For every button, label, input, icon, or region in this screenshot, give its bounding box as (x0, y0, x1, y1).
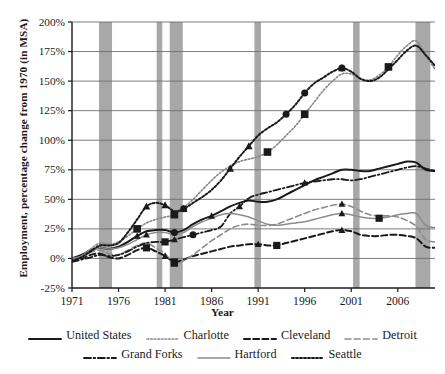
marker-circle (301, 89, 308, 96)
marker-square (376, 215, 383, 222)
legend-item-charlotte[interactable]: Charlotte (146, 328, 229, 343)
legend-item-united-states[interactable]: United States (28, 328, 131, 343)
legend-line-swatch (344, 330, 378, 341)
x-axis-title: Year (0, 306, 445, 318)
marker-square (171, 260, 178, 267)
legend-item-hartford[interactable]: Hartford (197, 347, 277, 362)
series-group (72, 41, 435, 264)
marker-square (161, 238, 168, 245)
legend-item-label: United States (66, 328, 131, 343)
y-tick-label: 0% (50, 252, 66, 264)
marker-circle (171, 229, 178, 236)
legend-item-seattle[interactable]: Seattle (291, 347, 362, 362)
marker-circle (190, 231, 197, 238)
recession-band (353, 22, 360, 288)
y-tick-label: 25% (44, 222, 65, 234)
y-tick-label: 125% (39, 104, 66, 116)
recession-band (254, 22, 261, 288)
y-tick-label: -25% (41, 282, 66, 294)
legend-item-label: Hartford (235, 347, 277, 362)
legend-item-detroit[interactable]: Detroit (344, 328, 417, 343)
marker-square (273, 242, 280, 249)
legend-line-swatch (291, 349, 325, 360)
legend-item-label: Seattle (329, 347, 362, 362)
legend-item-label: Cleveland (281, 328, 330, 343)
marker-square (264, 148, 272, 156)
legend-item-grand-forks[interactable]: Grand Forks (83, 347, 182, 362)
marker-square (301, 110, 309, 118)
y-tick-label: 200% (39, 16, 66, 28)
legend-line-swatch (243, 330, 277, 341)
recession-band (170, 22, 183, 288)
legend-line-swatch (146, 330, 180, 341)
series-line (72, 161, 435, 258)
y-tick-label: 50% (44, 193, 65, 205)
legend-line-swatch (83, 349, 117, 360)
y-tick-label: 175% (39, 45, 66, 57)
legend-item-cleveland[interactable]: Cleveland (243, 328, 330, 343)
legend-item-label: Grand Forks (121, 347, 182, 362)
legend-row-1: United StatesCharlotteClevelandDetroit (0, 326, 445, 345)
legend-item-label: Charlotte (184, 328, 229, 343)
y-tick-label: 75% (44, 163, 65, 175)
y-tick-label: 150% (39, 75, 66, 87)
chart-root: Employment, percentage change from 1970 … (0, 0, 445, 374)
y-tick-label: 100% (39, 134, 66, 146)
legend-row-2: Grand ForksHartfordSeattle (0, 345, 445, 364)
marker-square (385, 63, 393, 71)
chart-legend: United StatesCharlotteClevelandDetroit G… (0, 326, 445, 364)
legend-line-swatch (28, 330, 62, 341)
legend-line-swatch (197, 349, 231, 360)
marker-circle (180, 205, 187, 212)
legend-item-label: Detroit (382, 328, 417, 343)
line-chart-svg: -25%0%25%50%75%100%125%150%175%200%19711… (0, 0, 445, 310)
series-line (72, 166, 435, 262)
marker-square (171, 211, 179, 219)
marker-square (133, 225, 141, 233)
marker-circle (283, 111, 290, 118)
marker-circle (338, 65, 345, 72)
marker-square (143, 244, 150, 251)
series-line (72, 41, 435, 261)
plot-area: -25%0%25%50%75%100%125%150%175%200%19711… (0, 0, 445, 310)
